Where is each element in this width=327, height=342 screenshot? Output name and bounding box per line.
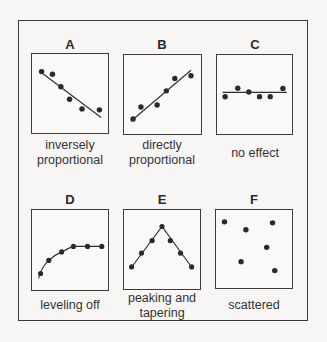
- panel-title: A: [31, 37, 109, 52]
- panel-caption: peaking and tapering: [113, 291, 211, 320]
- graph-peaking-and-tapering: [123, 209, 201, 290]
- graph-directly-proportional: [123, 54, 202, 135]
- plot-area: [217, 55, 292, 134]
- graph-inversely-proportional: [31, 53, 109, 134]
- panel-caption: inversely proportional: [21, 138, 119, 167]
- graph-no-effect: [216, 54, 293, 135]
- panel-title: C: [216, 37, 294, 52]
- plot-area: [216, 210, 292, 288]
- graph-leveling-off: [31, 209, 109, 291]
- panel-title: F: [215, 192, 293, 207]
- plot-area: [32, 54, 108, 133]
- panel-caption: scattered: [205, 298, 303, 313]
- plot-area: [32, 210, 108, 290]
- plot-area: [124, 55, 201, 134]
- panel-caption: directly proportional: [113, 138, 211, 167]
- panel-title: E: [123, 192, 201, 207]
- panel-caption: no effect: [206, 146, 304, 161]
- graph-scattered: [215, 209, 293, 289]
- panel-title: D: [31, 192, 109, 207]
- plot-area: [124, 210, 200, 289]
- panel-title: B: [123, 37, 201, 52]
- panel-caption: leveling off: [21, 298, 119, 313]
